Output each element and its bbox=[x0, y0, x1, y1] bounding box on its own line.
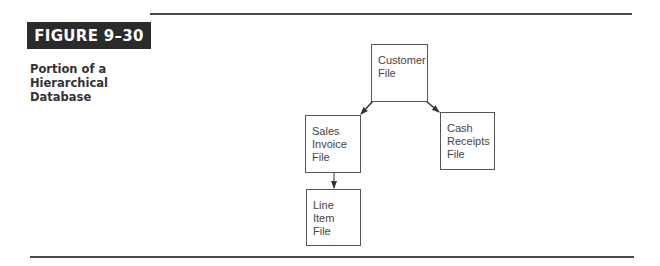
node-text: Cash bbox=[447, 122, 494, 135]
node-text: Line bbox=[313, 199, 360, 212]
edge-customer-sales bbox=[361, 101, 373, 114]
edge-customer-cash bbox=[426, 101, 439, 112]
node-text: Item bbox=[313, 212, 360, 225]
node-customer-file: Customer File bbox=[371, 44, 428, 102]
node-sales-invoice-file: Sales Invoice File bbox=[305, 115, 361, 173]
node-text: File bbox=[378, 67, 427, 80]
node-cash-receipts-file: Cash Receipts File bbox=[440, 112, 495, 170]
node-line-item-file: Line Item File bbox=[306, 189, 361, 246]
node-text: Sales bbox=[312, 125, 360, 138]
node-text: Invoice bbox=[312, 138, 360, 151]
node-text: Receipts bbox=[447, 135, 494, 148]
node-text: File bbox=[447, 148, 494, 161]
node-text: File bbox=[313, 225, 360, 238]
node-text: File bbox=[312, 151, 360, 164]
node-text: Customer bbox=[378, 54, 427, 67]
